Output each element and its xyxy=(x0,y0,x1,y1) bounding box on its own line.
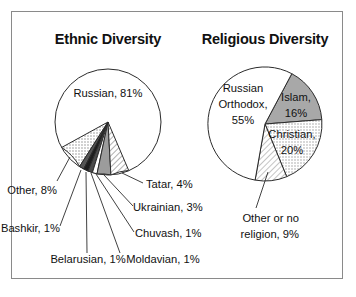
pie-charts-svg: Ethnic Diversity Russian, 81% Tatar, 4% … xyxy=(0,0,356,297)
religious-label-orthodox-line3: 55% xyxy=(232,114,254,126)
ethnic-leader-moldavian xyxy=(91,173,120,253)
religious-label-islam-line2: 16% xyxy=(285,107,307,119)
religious-label-other-line2: religion, 9% xyxy=(241,228,300,240)
religious-label-christian-line1: Christian, xyxy=(268,128,315,140)
ethnic-leader-bashkir xyxy=(60,170,81,226)
ethnic-chart-title: Ethnic Diversity xyxy=(55,31,162,47)
ethnic-leader-tatar xyxy=(122,173,143,183)
religious-label-other-line1: Other or no xyxy=(242,212,299,224)
ethnic-label-tatar: Tatar, 4% xyxy=(146,178,193,190)
religious-label-orthodox-line2: Orthodox, xyxy=(218,98,267,110)
ethnic-label-russian: Russian, 81% xyxy=(73,87,142,99)
ethnic-label-moldavian: Moldavian, 1% xyxy=(126,253,199,265)
religious-chart-title: Religious Diversity xyxy=(202,31,329,47)
ethnic-label-chuvash: Chuvash, 1% xyxy=(135,227,202,239)
ethnic-leader-ukrainian xyxy=(104,175,133,206)
ethnic-label-other: Other, 8% xyxy=(7,184,57,196)
ethnic-leader-belarusian xyxy=(86,172,87,253)
figure-container: Ethnic Diversity Russian, 81% Tatar, 4% … xyxy=(0,0,356,297)
religious-label-christian-line2: 20% xyxy=(281,144,303,156)
religious-label-orthodox-line1: Russian xyxy=(223,82,263,94)
religious-label-islam-line1: Islam, xyxy=(281,91,311,103)
ethnic-leader-other xyxy=(57,157,70,181)
ethnic-label-belarusian: Belarusian, 1% xyxy=(50,253,125,265)
ethnic-label-bashkir: Bashkir, 1% xyxy=(1,222,60,234)
ethnic-label-ukrainian: Ukrainian, 3% xyxy=(133,201,203,213)
